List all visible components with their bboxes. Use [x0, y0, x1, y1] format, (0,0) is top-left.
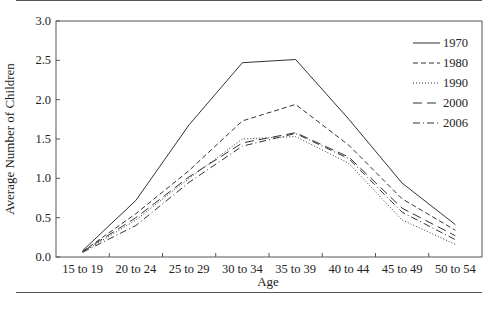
legend: 19701980199020002006	[413, 36, 468, 130]
series-line-1970	[83, 60, 456, 251]
series-line-2006	[83, 134, 456, 253]
series-line-1980	[83, 104, 456, 251]
x-axis-title: Age	[257, 274, 279, 289]
x-tick-label: 35 to 39	[275, 262, 316, 276]
y-tick-label: 1.5	[35, 132, 51, 146]
x-axis: 15 to 1920 to 2425 to 2930 to 3435 to 39…	[62, 253, 476, 276]
y-tick-label: 0.5	[35, 211, 51, 225]
y-axis-title: Average Number of Children	[2, 63, 17, 215]
y-tick-label: 2.5	[35, 53, 51, 67]
x-tick-label: 15 to 19	[62, 262, 103, 276]
legend-label-1970: 1970	[443, 36, 468, 50]
plot-frame	[56, 21, 482, 257]
x-tick-label: 25 to 29	[169, 262, 210, 276]
x-tick-label: 45 to 49	[382, 262, 423, 276]
y-tick-label: 3.0	[35, 14, 51, 28]
series-line-2000	[83, 133, 456, 252]
x-tick-label: 50 to 54	[435, 262, 477, 276]
y-tick-label: 0.0	[35, 250, 51, 264]
legend-label-2000: 2000	[443, 96, 468, 110]
series-line-1990	[83, 137, 456, 253]
legend-label-1990: 1990	[443, 76, 468, 90]
legend-label-1980: 1980	[443, 56, 468, 70]
x-tick-label: 40 to 44	[328, 262, 370, 276]
series-lines	[83, 60, 456, 253]
legend-label-2006: 2006	[443, 116, 468, 130]
line-chart: 0.00.51.01.52.02.53.0 15 to 1920 to 2425…	[0, 0, 496, 309]
y-tick-label: 1.0	[35, 171, 51, 185]
plot-border	[56, 21, 482, 257]
y-tick-label: 2.0	[35, 93, 51, 107]
x-tick-label: 20 to 24	[115, 262, 157, 276]
